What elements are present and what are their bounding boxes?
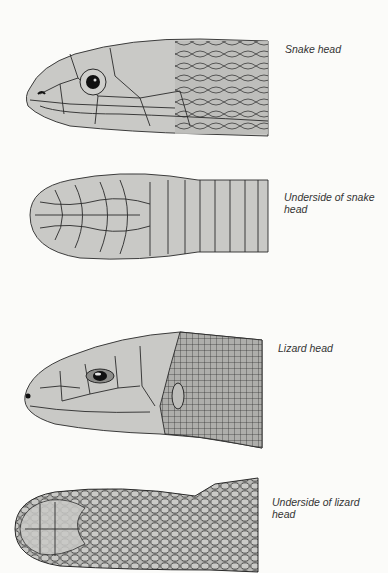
snake-head-illustration [0,36,275,141]
snake-underside-illustration [0,170,275,265]
caption-lizard-head: Lizard head [278,342,333,354]
caption-line: Underside of lizard [272,496,360,508]
caption-snake-head: Snake head [285,43,341,55]
caption-line: Underside of snake [284,191,374,203]
lizard-underside-illustration [0,474,275,573]
caption-snake-underside: Underside of snake head [284,191,374,215]
eye-icon [86,75,100,89]
eye-icon [93,371,107,381]
lizard-head-illustration [0,326,275,456]
caption-line: head [284,203,374,215]
caption-lizard-underside: Underside of lizard head [272,496,360,520]
caption-line: head [272,508,360,520]
